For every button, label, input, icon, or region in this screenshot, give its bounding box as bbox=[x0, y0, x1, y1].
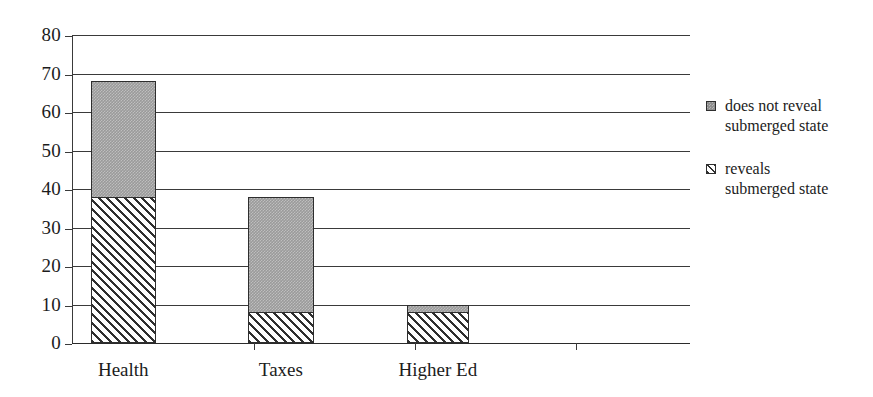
y-tick-80 bbox=[65, 36, 72, 37]
legend-swatch-gray-icon bbox=[706, 101, 716, 111]
gridline-40 bbox=[72, 189, 690, 190]
y-tick-70 bbox=[65, 75, 72, 76]
y-axis-label-0: 0 bbox=[51, 332, 61, 354]
gridline-10 bbox=[72, 305, 690, 306]
legend-label-line-1: does not reveal bbox=[725, 96, 828, 116]
y-axis-label-70: 70 bbox=[42, 63, 61, 85]
y-tick-50 bbox=[65, 152, 72, 153]
bar-higher-ed-segment-does-not-reveal bbox=[407, 305, 469, 313]
bar-taxes bbox=[248, 197, 314, 343]
y-tick-30 bbox=[65, 229, 72, 230]
gridline-30 bbox=[72, 228, 690, 229]
y-axis-label-80: 80 bbox=[42, 24, 61, 46]
legend-label-line-1: reveals bbox=[725, 159, 828, 179]
x-axis-label-health: Health bbox=[98, 359, 149, 381]
legend-swatch-hatch-icon bbox=[706, 164, 716, 174]
y-axis-label-40: 40 bbox=[42, 178, 61, 200]
y-axis-label-30: 30 bbox=[42, 217, 61, 239]
y-axis-label-60: 60 bbox=[42, 101, 61, 123]
bar-taxes-segment-does-not-reveal bbox=[248, 197, 314, 313]
bar-higher-ed bbox=[407, 305, 469, 344]
y-tick-40 bbox=[65, 190, 72, 191]
gridline-80 bbox=[72, 35, 690, 36]
x-tick-separator-2 bbox=[415, 343, 416, 350]
legend-item-does-not-reveal: does not reveal submerged state bbox=[706, 96, 866, 136]
bar-health-segment-reveals bbox=[91, 197, 157, 343]
legend-label-reveals: reveals submerged state bbox=[725, 159, 828, 199]
y-axis-label-50: 50 bbox=[42, 140, 61, 162]
gridline-70 bbox=[72, 74, 690, 75]
legend-label-line-2: submerged state bbox=[725, 179, 828, 199]
x-tick-separator-3 bbox=[576, 343, 577, 350]
plot-area: 80 70 60 50 40 30 20 10 0 Health Taxes H… bbox=[72, 35, 690, 343]
bar-higher-ed-segment-reveals bbox=[407, 312, 469, 343]
gridline-20 bbox=[72, 266, 690, 267]
legend-label-does-not-reveal: does not reveal submerged state bbox=[725, 96, 828, 136]
y-tick-20 bbox=[65, 267, 72, 268]
legend-item-reveals: reveals submerged state bbox=[706, 159, 866, 199]
bar-health-segment-does-not-reveal bbox=[91, 81, 157, 197]
bar-health bbox=[91, 81, 157, 343]
chart-legend: does not reveal submerged state reveals … bbox=[706, 96, 866, 222]
axis-baseline bbox=[72, 343, 690, 344]
y-tick-60 bbox=[65, 113, 72, 114]
x-axis-label-higher-ed: Higher Ed bbox=[399, 359, 478, 381]
x-axis-label-taxes: Taxes bbox=[259, 359, 303, 381]
stacked-bar-chart: 80 70 60 50 40 30 20 10 0 Health Taxes H… bbox=[0, 0, 873, 397]
y-tick-10 bbox=[65, 306, 72, 307]
y-tick-0 bbox=[65, 344, 72, 345]
legend-label-line-2: submerged state bbox=[725, 116, 828, 136]
bar-taxes-segment-reveals bbox=[248, 312, 314, 343]
gridline-50 bbox=[72, 151, 690, 152]
y-axis-label-10: 10 bbox=[42, 294, 61, 316]
gridline-60 bbox=[72, 112, 690, 113]
x-tick-separator-1 bbox=[254, 343, 255, 350]
y-axis-label-20: 20 bbox=[42, 255, 61, 277]
